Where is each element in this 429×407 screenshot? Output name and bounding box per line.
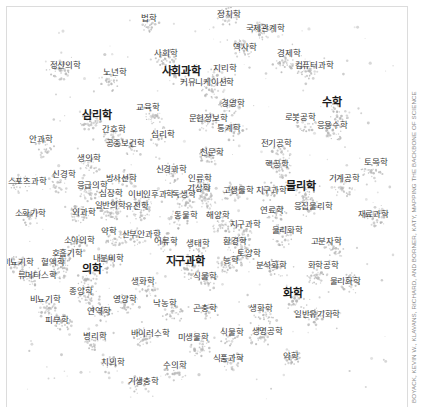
field-label: 역사학 bbox=[233, 43, 256, 52]
field-label: 천문학 bbox=[200, 148, 223, 157]
field-label: 바이러스학 bbox=[131, 329, 170, 338]
field-label: 신경과학 bbox=[156, 165, 187, 174]
field-label: 기생충학 bbox=[128, 377, 159, 386]
field-label: 약학 bbox=[283, 352, 298, 361]
field-label: 사회과학 bbox=[162, 66, 201, 77]
field-label: 비뇨기학 bbox=[6, 258, 33, 267]
field-label: 수의학 bbox=[163, 361, 186, 370]
field-label: 생화학 bbox=[131, 277, 154, 286]
field-label: 로봇공학 bbox=[285, 113, 316, 122]
field-label: 커뮤니케이션학 bbox=[180, 78, 234, 87]
field-label: 일반유기화학 bbox=[294, 310, 340, 319]
field-label: 지리학 bbox=[213, 64, 236, 73]
field-label: 컴퓨터과학 bbox=[295, 61, 334, 70]
field-label: 화학 bbox=[283, 288, 302, 299]
field-label: 영양학 bbox=[113, 295, 136, 304]
field-label: 정신의학 bbox=[50, 61, 81, 70]
field-label: 어류학 bbox=[154, 237, 177, 246]
field-label: 소화기학 bbox=[15, 209, 46, 218]
field-label: 수학 bbox=[322, 97, 341, 108]
field-label: 경제학 bbox=[277, 49, 300, 58]
field-label: 피부학 bbox=[45, 316, 68, 325]
field-label: 곤충학 bbox=[193, 304, 216, 313]
field-label: 응용수학 bbox=[317, 121, 348, 130]
field-label: 소아의학 bbox=[64, 236, 95, 245]
field-label: 외과학 bbox=[72, 208, 95, 217]
field-label: 화학공학 bbox=[308, 261, 339, 270]
field-label: 이비인후과학 bbox=[128, 190, 174, 199]
field-label: 종양학 bbox=[69, 287, 92, 296]
field-label: 유전학 bbox=[125, 202, 148, 211]
field-label: 경영학 bbox=[221, 99, 244, 108]
field-label: 치의학 bbox=[101, 358, 124, 367]
field-label: 간호학 bbox=[102, 125, 125, 134]
field-label: 신경학 bbox=[52, 170, 75, 179]
field-label: 고생물학 bbox=[223, 186, 254, 195]
field-label: 스포츠과학 bbox=[8, 177, 47, 186]
field-label: 연역학 bbox=[87, 307, 110, 316]
field-label: 비뇨기학 bbox=[30, 295, 61, 304]
field-label: 토목학 bbox=[364, 158, 387, 167]
field-label: 토양학 bbox=[237, 249, 260, 258]
field-label: 인류학 bbox=[188, 174, 211, 183]
field-label: 의학 bbox=[82, 264, 101, 275]
field-label: 내분비학 bbox=[93, 254, 124, 263]
field-label: 심장학 bbox=[99, 189, 122, 198]
field-label: 생태학 bbox=[186, 239, 209, 248]
field-label: 정치학 bbox=[217, 10, 240, 19]
field-label: 분석화학 bbox=[256, 261, 287, 270]
field-label: 방사선학 bbox=[106, 174, 137, 183]
field-label: 노년학 bbox=[103, 68, 126, 77]
field-label: 식물학 bbox=[193, 272, 216, 281]
field-label: 국제관계학 bbox=[246, 24, 285, 33]
field-label: 약학 bbox=[101, 227, 116, 236]
field-label: 물리학 bbox=[286, 181, 315, 192]
field-label: 문헌정보학 bbox=[189, 114, 228, 123]
field-label: 독생학 bbox=[172, 190, 195, 199]
field-label: 응집물리학 bbox=[294, 202, 333, 211]
field-label: 연료학 bbox=[260, 206, 283, 215]
science-map: 법학정치학국제관계학사회학역사학경제학정신의학노년학사회과학지리학컴퓨터과학커뮤… bbox=[6, 6, 408, 407]
field-label: 물리화학 bbox=[330, 277, 361, 286]
field-label: 기계공학 bbox=[329, 174, 360, 183]
field-label: 통계학 bbox=[217, 124, 240, 133]
field-label: 식물학 bbox=[220, 328, 243, 337]
field-label: 혈액학 bbox=[41, 258, 64, 267]
field-label: 류머티스학 bbox=[18, 271, 57, 280]
field-label: 공중보건학 bbox=[106, 139, 145, 148]
field-label: 생화학 bbox=[249, 304, 272, 313]
field-label: 농학 bbox=[223, 256, 238, 265]
field-label: 핵공학 bbox=[265, 160, 288, 169]
field-label: 생명공학 bbox=[252, 327, 283, 336]
field-label: 동물학 bbox=[174, 211, 197, 220]
field-label: 물리화학 bbox=[272, 226, 303, 235]
field-label: 미생물학 bbox=[178, 333, 209, 342]
credit-text: BOYACK, KEVIN W., KLAVANS, RICHARD, AND … bbox=[410, 91, 417, 403]
field-label: 교육학 bbox=[136, 103, 159, 112]
field-label: 병리학 bbox=[83, 332, 106, 341]
field-label: 지구과학 bbox=[230, 220, 261, 229]
field-label: 해양학 bbox=[206, 211, 229, 220]
field-label: 일반의학 bbox=[95, 201, 126, 210]
field-label: 사회학 bbox=[154, 49, 177, 58]
field-label: 전기공학 bbox=[261, 139, 292, 148]
field-label: 생의학 bbox=[77, 154, 100, 163]
field-label: 환경학 bbox=[223, 237, 246, 246]
field-label: 고분자학 bbox=[311, 237, 342, 246]
field-label: 안과학 bbox=[29, 135, 52, 144]
field-label: 낙농학 bbox=[153, 299, 176, 308]
field-label: 식품과학 bbox=[213, 354, 244, 363]
field-label: 심리학 bbox=[82, 110, 111, 121]
field-label: 재료과학 bbox=[358, 210, 389, 219]
field-label: 지구과학 bbox=[166, 256, 205, 267]
field-label: 법학 bbox=[141, 14, 156, 23]
field-label: 심리학 bbox=[151, 130, 174, 139]
field-label: 지구과학 bbox=[256, 186, 287, 195]
